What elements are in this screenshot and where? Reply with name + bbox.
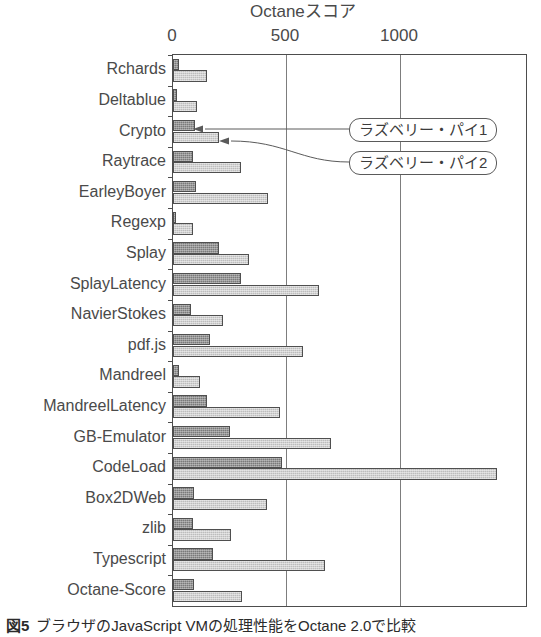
category-label-MandreelLatency: MandreelLatency bbox=[0, 397, 166, 415]
bar-SplayLatency-series2 bbox=[173, 285, 319, 296]
bar-zlib-series2 bbox=[173, 529, 231, 540]
bar-group bbox=[173, 239, 526, 270]
bar-Regexp-series2 bbox=[173, 223, 193, 234]
bar-MandreelLatency-series2 bbox=[173, 407, 280, 418]
category-tick bbox=[168, 331, 173, 332]
bar-Splay-series1 bbox=[173, 242, 219, 253]
bar-group bbox=[173, 514, 526, 545]
bar-Typescript-series1 bbox=[173, 548, 213, 559]
category-label-Octane-Score: Octane-Score bbox=[0, 581, 166, 599]
bar-Deltablue-series1 bbox=[173, 89, 177, 100]
callout-raspberry-pi-2[interactable]: ラズベリー・パイ2 bbox=[349, 151, 497, 175]
bar-group bbox=[173, 177, 526, 208]
bar-EarleyBoyer-series2 bbox=[173, 193, 268, 204]
category-tick bbox=[168, 86, 173, 87]
category-tick bbox=[168, 361, 173, 362]
x-tick-label-1000: 1000 bbox=[377, 26, 421, 45]
bar-Mandreel-series1 bbox=[173, 365, 179, 376]
x-tick-label-500: 500 bbox=[263, 26, 307, 45]
bar-Crypto-series2 bbox=[173, 132, 219, 143]
category-axis-labels: RchardsDeltablueCryptoRaytraceEarleyBoye… bbox=[0, 54, 168, 607]
bar-Box2DWeb-series1 bbox=[173, 487, 194, 498]
bar-pdf-js-series1 bbox=[173, 334, 210, 345]
category-label-Rchards: Rchards bbox=[0, 60, 166, 78]
bar-Octane-Score-series2 bbox=[173, 591, 242, 602]
category-label-Deltablue: Deltablue bbox=[0, 91, 166, 109]
bar-Octane-Score-series1 bbox=[173, 579, 194, 590]
caption-number: 図5 bbox=[6, 617, 29, 634]
category-tick bbox=[168, 177, 173, 178]
bar-Typescript-series2 bbox=[173, 560, 325, 571]
bar-group bbox=[173, 484, 526, 515]
category-tick bbox=[168, 575, 173, 576]
bar-Rchards-series2 bbox=[173, 70, 207, 81]
category-tick bbox=[168, 116, 173, 117]
bar-group bbox=[173, 422, 526, 453]
bar-GB-Emulator-series2 bbox=[173, 438, 331, 449]
category-tick bbox=[168, 55, 173, 56]
bar-MandreelLatency-series1 bbox=[173, 395, 207, 406]
bar-group bbox=[173, 575, 526, 606]
category-label-pdf-js: pdf.js bbox=[0, 336, 166, 354]
bar-group bbox=[173, 453, 526, 484]
bar-CodeLoad-series1 bbox=[173, 457, 282, 468]
bar-NavierStokes-series2 bbox=[173, 315, 223, 326]
figure-caption: 図5ブラウザのJavaScript VMの処理性能をOctane 2.0で比較 bbox=[6, 616, 541, 635]
bar-Box2DWeb-series2 bbox=[173, 499, 267, 510]
bar-GB-Emulator-series1 bbox=[173, 426, 230, 437]
category-label-Regexp: Regexp bbox=[0, 213, 166, 231]
category-tick bbox=[168, 484, 173, 485]
bar-group bbox=[173, 361, 526, 392]
category-tick bbox=[168, 514, 173, 515]
bar-Raytrace-series2 bbox=[173, 162, 241, 173]
bar-group bbox=[173, 331, 526, 362]
bar-pdf-js-series2 bbox=[173, 346, 303, 357]
category-tick bbox=[168, 453, 173, 454]
bar-Rchards-series1 bbox=[173, 59, 179, 70]
category-tick bbox=[168, 239, 173, 240]
category-tick bbox=[168, 269, 173, 270]
bar-Regexp-series1 bbox=[173, 212, 176, 223]
chart-axis-title: Octaneスコア bbox=[250, 2, 470, 22]
caption-text: ブラウザのJavaScript VMの処理性能をOctane 2.0で比較 bbox=[36, 617, 416, 634]
bar-Splay-series2 bbox=[173, 254, 249, 265]
bar-NavierStokes-series1 bbox=[173, 304, 191, 315]
category-label-Crypto: Crypto bbox=[0, 122, 166, 140]
bar-group bbox=[173, 55, 526, 86]
bar-group bbox=[173, 300, 526, 331]
bar-zlib-series1 bbox=[173, 518, 193, 529]
figure-container: Octaneスコア 0 500 1000 RchardsDeltablueCry… bbox=[0, 0, 541, 637]
category-label-Mandreel: Mandreel bbox=[0, 366, 166, 384]
bar-group bbox=[173, 86, 526, 117]
category-label-Raytrace: Raytrace bbox=[0, 152, 166, 170]
category-tick bbox=[168, 300, 173, 301]
bar-CodeLoad-series2 bbox=[173, 468, 497, 479]
category-label-Typescript: Typescript bbox=[0, 550, 166, 568]
bar-group bbox=[173, 208, 526, 239]
bar-Deltablue-series2 bbox=[173, 101, 197, 112]
x-tick-label-0: 0 bbox=[150, 26, 194, 45]
category-tick bbox=[168, 392, 173, 393]
category-label-zlib: zlib bbox=[0, 519, 166, 537]
bar-group bbox=[173, 545, 526, 576]
category-label-SplayLatency: SplayLatency bbox=[0, 275, 166, 293]
category-tick bbox=[168, 545, 173, 546]
category-tick bbox=[168, 147, 173, 148]
bar-Raytrace-series1 bbox=[173, 151, 193, 162]
category-label-Splay: Splay bbox=[0, 244, 166, 262]
category-tick bbox=[168, 208, 173, 209]
callout-raspberry-pi-1[interactable]: ラズベリー・パイ1 bbox=[349, 118, 497, 142]
category-label-CodeLoad: CodeLoad bbox=[0, 458, 166, 476]
bar-Crypto-series1 bbox=[173, 120, 195, 131]
category-label-Box2DWeb: Box2DWeb bbox=[0, 489, 166, 507]
category-label-GB-Emulator: GB-Emulator bbox=[0, 428, 166, 446]
bar-Mandreel-series2 bbox=[173, 376, 200, 387]
category-label-EarleyBoyer: EarleyBoyer bbox=[0, 183, 166, 201]
category-tick bbox=[168, 422, 173, 423]
bar-EarleyBoyer-series1 bbox=[173, 181, 196, 192]
category-label-NavierStokes: NavierStokes bbox=[0, 305, 166, 323]
bar-SplayLatency-series1 bbox=[173, 273, 241, 284]
bar-group bbox=[173, 269, 526, 300]
bar-group bbox=[173, 392, 526, 423]
